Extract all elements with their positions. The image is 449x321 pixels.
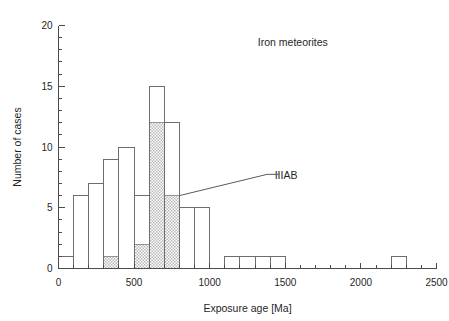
histogram-bar-iiiab bbox=[149, 123, 164, 269]
chart-title-annotation: Iron meteorites bbox=[258, 36, 328, 48]
x-axis-tick-label: 0 bbox=[56, 277, 62, 288]
y-axis-tick-label: 5 bbox=[47, 202, 53, 213]
x-axis-tick-label: 1500 bbox=[274, 277, 297, 288]
all-iron-bars-group bbox=[59, 86, 407, 268]
x-axis-tick-label: 2500 bbox=[425, 277, 448, 288]
y-axis-tick-label: 20 bbox=[41, 20, 53, 31]
axes-group: 05101520 05001000150020002500 bbox=[41, 20, 448, 287]
x-axis-tick-labels: 05001000150020002500 bbox=[56, 277, 448, 288]
histogram-bar-iiiab bbox=[104, 256, 119, 268]
y-axis-title: Number of cases bbox=[11, 107, 23, 186]
y-axis-tick-label: 0 bbox=[47, 263, 53, 274]
iiiab-leader-line bbox=[179, 174, 279, 195]
x-axis-title: Exposure age [Ma] bbox=[203, 302, 291, 314]
y-axis-tick-label: 15 bbox=[41, 81, 53, 92]
chart-figure: 05101520 05001000150020002500 Exposure a… bbox=[0, 0, 449, 321]
x-axis-tick-label: 1000 bbox=[199, 277, 222, 288]
histogram-bar-outline-run bbox=[391, 256, 406, 268]
y-axis-tick-labels: 05101520 bbox=[41, 20, 53, 274]
x-axis-tick-label: 2000 bbox=[350, 277, 373, 288]
histogram-bar-iiiab bbox=[134, 244, 149, 268]
y-axis-tick-label: 10 bbox=[41, 142, 53, 153]
histogram-bar-iiiab bbox=[164, 196, 179, 269]
x-axis-tick-label: 500 bbox=[126, 277, 143, 288]
histogram-plot: 05101520 05001000150020002500 Exposure a… bbox=[0, 0, 449, 321]
y-axis-ticks bbox=[59, 26, 65, 269]
